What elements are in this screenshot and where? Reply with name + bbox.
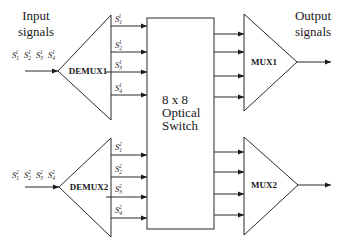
input-signals-title-line1: Input: [22, 8, 50, 23]
input-signal-labels-1: S11 S21 S31 S41: [12, 49, 55, 61]
mux2-input-arrows: [214, 152, 244, 215]
svg-text:S31: S31: [115, 59, 122, 71]
switch-label-switch: Switch: [162, 118, 199, 133]
demux2-output-labels: S12 S22 S32 S42: [115, 141, 122, 216]
demux1-output-arrows: [106, 26, 147, 95]
demux1-label: DEMUX1: [69, 66, 108, 76]
output-signals-title-line2: signals: [295, 24, 331, 39]
svg-text:S32: S32: [115, 183, 122, 195]
svg-text:S12: S12: [115, 141, 122, 153]
svg-text:S31: S31: [36, 49, 43, 61]
svg-text:S21: S21: [24, 49, 31, 61]
svg-text:S22: S22: [115, 163, 122, 175]
svg-text:S32: S32: [36, 169, 43, 181]
svg-text:S41: S41: [48, 49, 55, 61]
svg-text:S42: S42: [48, 169, 55, 181]
optical-switch-diagram: Input signals Output signals S11 S21 S31…: [0, 0, 344, 247]
svg-text:S12: S12: [12, 169, 19, 181]
output-signals-title-line1: Output: [295, 8, 332, 23]
svg-text:S41: S41: [115, 82, 122, 94]
svg-text:S42: S42: [115, 204, 122, 216]
demux2-output-arrows: [106, 155, 147, 218]
svg-text:S22: S22: [24, 169, 31, 181]
mux2-label: MUX2: [251, 180, 277, 190]
demux1-output-labels: S11 S21 S31 S41: [115, 13, 122, 94]
input-signals-title-line2: signals: [18, 24, 54, 39]
mux1-label: MUX1: [251, 57, 277, 67]
input-signal-labels-2: S12 S22 S32 S42: [12, 169, 55, 181]
svg-text:S21: S21: [115, 39, 122, 51]
svg-text:S11: S11: [115, 13, 122, 25]
demux2-label: DEMUX2: [70, 182, 109, 192]
mux1-input-arrows: [214, 34, 244, 97]
svg-text:S11: S11: [12, 49, 19, 61]
